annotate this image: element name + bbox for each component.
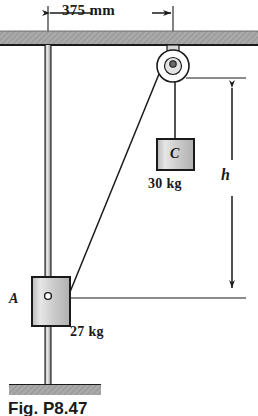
cable-diagonal-to-collar [70,74,159,292]
collar-a-body [32,277,70,326]
pulley-axle [170,61,176,67]
dimension-label-375mm: 375 mm [62,3,115,18]
floor-base [9,385,101,395]
figure-caption: Fig. P8.47 [8,400,87,416]
dimension-label-h: h [221,167,230,183]
ceiling-support [0,31,258,45]
block-c-mass-label: 30 kg [148,177,182,191]
mechanics-diagram [0,0,258,416]
floor-hatch [9,385,101,395]
ceiling-hatch [0,31,258,45]
collar-a-label: A [9,292,18,306]
vertical-guide-rod [45,45,51,385]
collar-a-mass-label: 27 kg [70,325,104,339]
pulley-assembly [157,45,189,82]
block-c-label: C [170,147,179,161]
collar-a-pin [45,293,52,300]
collar-a [32,277,70,326]
rod-body [45,45,51,385]
figure-container: 375 mm h A C 30 kg 27 kg Fig. P8.47 [0,0,258,416]
